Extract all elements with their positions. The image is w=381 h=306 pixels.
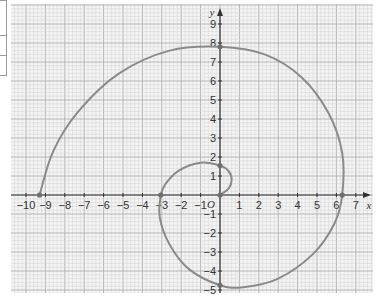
- spiral-chart: −10−9−8−7−6−5−4−3−2−11234567−5−4−3−2−112…: [0, 0, 381, 306]
- svg-text:6: 6: [210, 75, 216, 87]
- svg-text:7: 7: [353, 199, 359, 211]
- svg-text:−7: −7: [78, 199, 91, 211]
- svg-text:−2: −2: [203, 227, 216, 239]
- svg-text:9: 9: [210, 18, 216, 30]
- svg-text:−6: −6: [97, 199, 110, 211]
- svg-text:−2: −2: [175, 199, 188, 211]
- svg-text:−3: −3: [203, 246, 216, 258]
- svg-text:5: 5: [314, 199, 320, 211]
- svg-text:2: 2: [256, 199, 262, 211]
- svg-text:6: 6: [333, 199, 339, 211]
- svg-text:5: 5: [210, 94, 216, 106]
- svg-text:−5: −5: [117, 199, 130, 211]
- svg-text:O: O: [207, 198, 215, 210]
- svg-text:−3: −3: [156, 199, 169, 211]
- svg-text:4: 4: [210, 113, 216, 125]
- svg-text:2: 2: [210, 151, 216, 163]
- svg-text:7: 7: [210, 56, 216, 68]
- svg-text:y: y: [209, 6, 215, 18]
- svg-text:−9: −9: [39, 199, 52, 211]
- svg-text:−4: −4: [203, 265, 216, 277]
- svg-text:1: 1: [210, 170, 216, 182]
- svg-text:x: x: [366, 199, 372, 211]
- svg-text:−4: −4: [136, 199, 149, 211]
- svg-text:3: 3: [275, 199, 281, 211]
- svg-text:−5: −5: [203, 284, 216, 296]
- svg-text:−8: −8: [59, 199, 72, 211]
- svg-text:−10: −10: [17, 199, 36, 211]
- svg-text:3: 3: [210, 132, 216, 144]
- svg-text:1: 1: [236, 199, 242, 211]
- svg-text:4: 4: [295, 199, 301, 211]
